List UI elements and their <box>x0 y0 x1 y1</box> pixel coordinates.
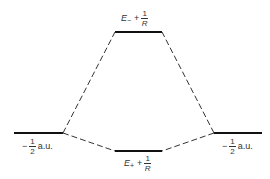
numerator: 1 <box>229 137 235 147</box>
connector-left-upper <box>63 32 115 133</box>
numerator: 1 <box>29 137 35 147</box>
energy-subscript: + <box>130 162 134 169</box>
denominator: R <box>142 19 148 28</box>
fraction: 1R <box>141 9 147 28</box>
unit-label: a.u. <box>238 142 253 151</box>
fraction: 1R <box>144 154 150 173</box>
left-level-label: − 12 a.u. <box>22 137 53 156</box>
connector-right-upper <box>162 32 214 133</box>
upper-level-label: E− + 1R <box>121 9 150 28</box>
minus-sign: − <box>222 142 227 151</box>
fraction: 12 <box>29 137 35 156</box>
connector-right-lower <box>162 133 214 151</box>
plus-sign: + <box>137 159 142 168</box>
numerator: 1 <box>141 9 147 19</box>
energy-subscript: − <box>127 17 131 24</box>
fraction: 12 <box>229 137 235 156</box>
connector-left-lower <box>63 133 115 151</box>
plus-sign: + <box>134 14 139 23</box>
denominator: R <box>145 164 151 173</box>
denominator: 2 <box>30 147 34 156</box>
unit-label: a.u. <box>38 142 53 151</box>
lower-level-label: E+ + 1R <box>124 154 153 173</box>
denominator: 2 <box>230 147 234 156</box>
right-level-label: − 12 a.u. <box>222 137 253 156</box>
numerator: 1 <box>144 154 150 164</box>
minus-sign: − <box>22 142 27 151</box>
